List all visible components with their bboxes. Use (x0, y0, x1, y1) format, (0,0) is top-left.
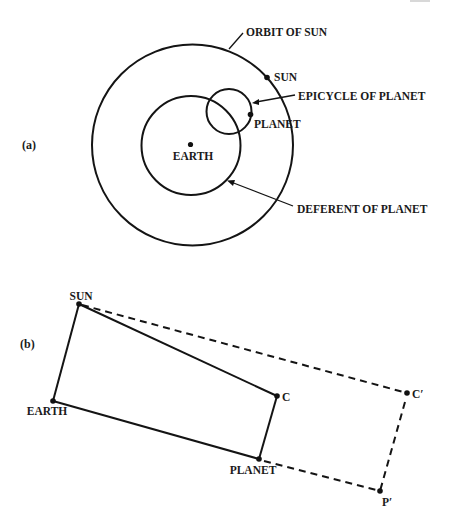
epicycle-arrow-line (256, 95, 295, 102)
c-prime-to-p-prime-dashed (380, 402, 405, 491)
planet-to-p-prime-dashed (264, 461, 380, 491)
deferent-arrowhead-icon (227, 180, 235, 186)
planet-label-b: PLANET (230, 464, 277, 476)
planet-dot-b (256, 456, 262, 462)
sun-label-b: SUN (69, 290, 93, 302)
panel-b: (b) SUN EARTH C PLANET C′ P′ (20, 290, 424, 508)
panel-a-label: (a) (22, 138, 36, 152)
panel-a: (a) ORBIT OF SUN SUN EPICYCLE OF PLANET … (22, 26, 428, 246)
earth-to-sun-line (53, 304, 79, 401)
earth-label-a: EARTH (173, 150, 214, 162)
diagram-canvas: (a) ORBIT OF SUN SUN EPICYCLE OF PLANET … (0, 0, 450, 512)
epicycle-label: EPICYCLE OF PLANET (298, 90, 426, 102)
orbit-of-sun-label: ORBIT OF SUN (246, 26, 328, 38)
c-prime-label: C′ (412, 388, 424, 400)
p-prime-label: P′ (382, 496, 392, 508)
planet-dot (248, 112, 254, 118)
c-prime-dot (404, 390, 410, 396)
page-number-fragment (410, 0, 430, 2)
orbit-of-sun-leader (229, 33, 243, 49)
c-to-planet-line (259, 396, 277, 459)
p-prime-dot (377, 488, 383, 494)
panel-b-label: (b) (20, 337, 35, 351)
planet-to-earth-line (53, 401, 259, 459)
epicycle-arrowhead-icon (252, 99, 259, 105)
earth-dot-b (50, 398, 56, 404)
sun-label-a: SUN (274, 71, 298, 83)
c-dot (274, 393, 280, 399)
planet-label-a: PLANET (254, 118, 301, 130)
sun-dot (264, 75, 270, 81)
epicycle-circle (207, 89, 252, 134)
c-label: C (282, 391, 290, 403)
earth-dot (188, 142, 193, 147)
deferent-label: DEFERENT OF PLANET (297, 203, 428, 215)
sun-dot-b (76, 301, 82, 307)
earth-label-b: EARTH (27, 405, 68, 417)
